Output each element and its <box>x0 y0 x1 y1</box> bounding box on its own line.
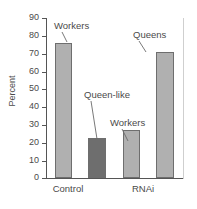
annotation-control-queen-like: Queen-like <box>84 89 130 100</box>
bar-rnai-queens[interactable] <box>156 52 174 178</box>
x-tick-label-rnai: RNAi <box>120 183 166 194</box>
x-tick-label-control: Control <box>45 183 91 194</box>
bar-rnai-workers[interactable] <box>123 130 140 178</box>
bar-control-queen-like[interactable] <box>88 138 106 178</box>
annotation-rnai-queens: Queens <box>133 29 166 40</box>
annotation-rnai-workers: Workers <box>110 117 145 128</box>
bar-chart-figure: Percent 90 80 70 60 50 40 30 20 10 0 Con… <box>0 0 197 209</box>
y-tick-label-60: 60 <box>5 67 39 76</box>
y-tick-label-30: 30 <box>5 120 39 129</box>
y-tick-label-50: 50 <box>5 84 39 93</box>
annotation-control-workers: Workers <box>54 20 89 31</box>
y-tick-label-10: 10 <box>5 156 39 165</box>
plot-right-border <box>183 18 184 179</box>
y-tick-mark-0 <box>42 178 47 179</box>
x-axis-line <box>46 178 184 179</box>
y-tick-label-90: 90 <box>5 13 39 22</box>
y-tick-label-0: 0 <box>5 173 39 182</box>
y-tick-label-70: 70 <box>5 49 39 58</box>
y-tick-label-20: 20 <box>5 138 39 147</box>
y-tick-label-80: 80 <box>5 31 39 40</box>
y-tick-label-40: 40 <box>5 102 39 111</box>
bar-control-workers[interactable] <box>55 43 72 178</box>
